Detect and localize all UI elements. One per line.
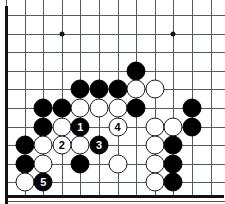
- stone-white: [71, 136, 90, 155]
- stone-white: [34, 136, 53, 155]
- stone-white: [52, 117, 71, 136]
- stone-white-move-2: 2: [52, 136, 71, 155]
- stone-move-number: 1: [77, 121, 83, 132]
- stone-black: [15, 136, 34, 155]
- stone-black: [183, 117, 202, 136]
- stone-black: [52, 99, 71, 118]
- stone-white: [145, 80, 164, 99]
- stone-black: [71, 80, 90, 99]
- stone-white: [71, 99, 90, 118]
- stone-black-move-1: 1: [71, 117, 90, 136]
- board-edge-left: [5, 6, 8, 204]
- stone-white: [145, 154, 164, 173]
- star-point: [59, 31, 64, 36]
- stone-black-move-5: 5: [34, 173, 53, 192]
- stone-black: [164, 173, 183, 192]
- stone-white: [145, 173, 164, 192]
- stone-white: [145, 117, 164, 136]
- stone-white: [34, 154, 53, 173]
- stone-black-move-3: 3: [90, 136, 109, 155]
- stone-white: [127, 80, 146, 99]
- stone-black: [183, 99, 202, 118]
- grid-line-vertical: [211, 0, 212, 196]
- stone-black: [15, 154, 34, 173]
- stone-black: [164, 154, 183, 173]
- stone-move-number: 5: [40, 177, 46, 188]
- star-point: [171, 31, 176, 36]
- stone-black: [34, 99, 53, 118]
- stone-move-number: 2: [59, 140, 65, 151]
- stone-white: [145, 136, 164, 155]
- stone-white: [164, 117, 183, 136]
- stone-black: [164, 136, 183, 155]
- stone-white: [90, 99, 109, 118]
- stone-move-number: 4: [115, 121, 121, 132]
- stone-black: [71, 154, 90, 173]
- stone-white: [15, 173, 34, 192]
- stone-white: [108, 99, 127, 118]
- stone-black: [127, 99, 146, 118]
- board-edge-bottom: [5, 195, 224, 198]
- stone-black: [90, 80, 109, 99]
- stone-white: [108, 154, 127, 173]
- stone-move-number: 3: [96, 140, 102, 151]
- stone-black: [108, 80, 127, 99]
- grid-line-horizontal: [6, 201, 225, 202]
- stone-black: [127, 61, 146, 80]
- stone-white-move-4: 4: [108, 117, 127, 136]
- go-board-diagram: 14235: [0, 0, 225, 204]
- stone-black: [34, 117, 53, 136]
